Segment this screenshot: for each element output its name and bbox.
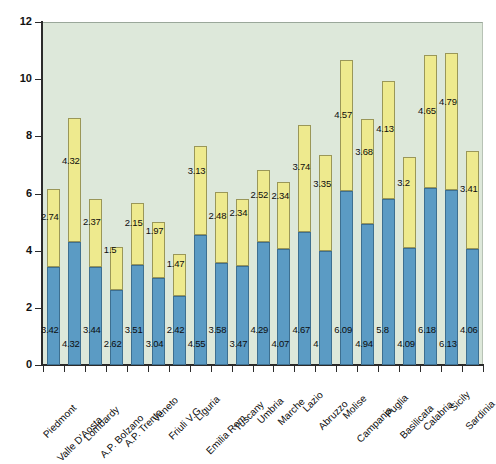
x-axis-label-sicily: Sicily: [448, 390, 472, 414]
x-axis-label-molise: Molise: [341, 393, 369, 421]
x-axis-label-sardinia: Sardinia: [463, 399, 496, 432]
x-axis-label-piedmont: Piedmont: [42, 403, 79, 440]
x-axis-label-lazio: Lazio: [301, 390, 325, 414]
x-axis-label-liguria: Liguria: [194, 394, 222, 422]
x-axis-label-puglia: Puglia: [383, 393, 410, 420]
x-axis-label-veneto: Veneto: [151, 395, 180, 424]
